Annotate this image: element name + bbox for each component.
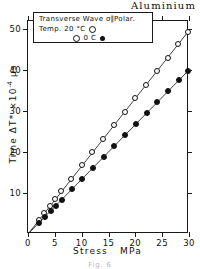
y-tick-mark — [23, 193, 28, 194]
legend-line-2: Temp. 20 °C — [39, 25, 97, 33]
y-axis-unit: μs — [8, 64, 18, 77]
y-tick-mark-right — [187, 70, 192, 71]
filled-circle-marker — [79, 176, 85, 182]
open-circle-icon — [89, 26, 96, 33]
y-tick-mark-right — [187, 152, 192, 153]
filled-circle-marker — [48, 208, 54, 214]
legend-polarization-label: Polar. — [114, 15, 135, 23]
y-tick-mark — [23, 152, 28, 153]
filled-circle-marker — [59, 197, 65, 203]
x-tick-mark — [109, 232, 110, 237]
legend-wave-type: Transverse Wave — [39, 15, 103, 23]
filled-circle-marker — [144, 110, 150, 116]
x-tick-mark — [135, 232, 136, 237]
x-tick-mark — [82, 232, 83, 237]
x-tick-mark-top — [28, 16, 29, 21]
open-circle-marker — [143, 82, 149, 88]
plot-area: 1020304050 051015202530 — [27, 20, 188, 233]
filled-circle-icon — [100, 36, 105, 41]
filled-circle-marker — [36, 220, 42, 226]
open-circle-marker — [165, 55, 171, 61]
legend: Transverse Wave σ∥Polar. Temp. 20 °C 0 C — [33, 12, 153, 43]
figure-container: Aluminium 1020304050 051015202530 Transv… — [0, 0, 200, 269]
material-title: Aluminium — [131, 0, 196, 11]
filled-circle-marker — [90, 165, 96, 171]
figure-caption: Fig. 6 — [0, 261, 200, 269]
y-tick-mark-right — [187, 29, 192, 30]
x-tick-mark-top — [162, 16, 163, 21]
y-tick-mark — [23, 29, 28, 30]
x-axis-title: StressMPa — [27, 246, 188, 256]
open-circle-marker — [122, 109, 128, 115]
filled-circle-marker — [53, 203, 59, 209]
y-axis-exponent: -4 — [6, 81, 14, 87]
x-tick-mark — [189, 232, 190, 237]
filled-circle-marker — [101, 154, 107, 160]
open-circle-icon — [73, 35, 80, 42]
x-tick-mark-top — [189, 16, 190, 21]
y-tick-mark — [23, 70, 28, 71]
legend-series2-label: 0 C — [84, 34, 97, 42]
x-tick-mark — [55, 232, 56, 237]
x-tick-mark — [28, 232, 29, 237]
filled-circle-marker — [122, 132, 128, 138]
legend-series1-label: Temp. 20 °C — [39, 25, 85, 33]
y-tick-mark-right — [187, 111, 192, 112]
legend-line-1: Transverse Wave σ∥Polar. — [39, 15, 135, 23]
legend-line-3: 0 C — [72, 34, 106, 42]
y-tick-mark — [23, 111, 28, 112]
y-axis-title-main: Time ΔT* ×10 — [8, 87, 18, 163]
y-tick-mark-right — [187, 193, 192, 194]
fit-lines — [28, 21, 189, 234]
x-axis-unit: MPa — [120, 246, 142, 256]
filled-circle-marker — [42, 214, 48, 220]
y-axis-title: Time ΔT* ×10-4 μs — [6, 24, 18, 204]
x-tick-mark — [162, 232, 163, 237]
x-axis-title-main: Stress — [73, 246, 108, 256]
